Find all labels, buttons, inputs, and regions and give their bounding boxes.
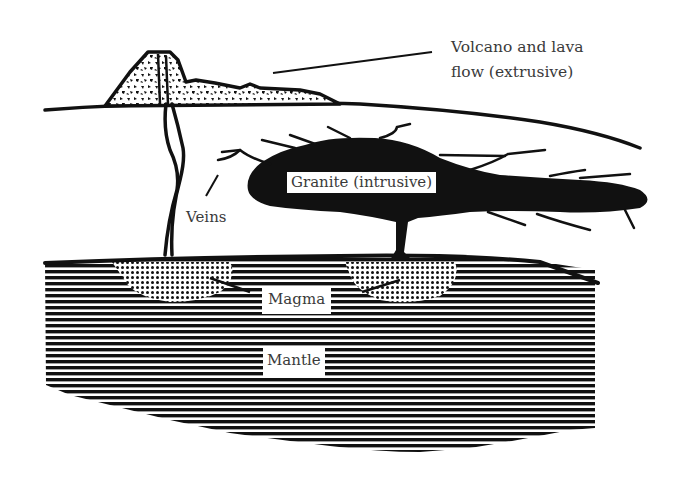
volcano-label: Volcano and lava flow (extrusive) [451, 35, 584, 85]
vein-dyke [165, 104, 184, 255]
veins-label: Veins [186, 208, 227, 227]
veins-leader-line [206, 175, 218, 196]
magma-label: Magma [262, 288, 331, 314]
mantle-label: Mantle [263, 348, 325, 376]
volcano [105, 52, 340, 106]
volcano-label-line1: Volcano and lava [451, 35, 584, 60]
volcano-leader-line [273, 52, 432, 73]
volcano-label-line2: flow (extrusive) [451, 60, 584, 85]
granite-label: Granite (intrusive) [287, 172, 436, 193]
